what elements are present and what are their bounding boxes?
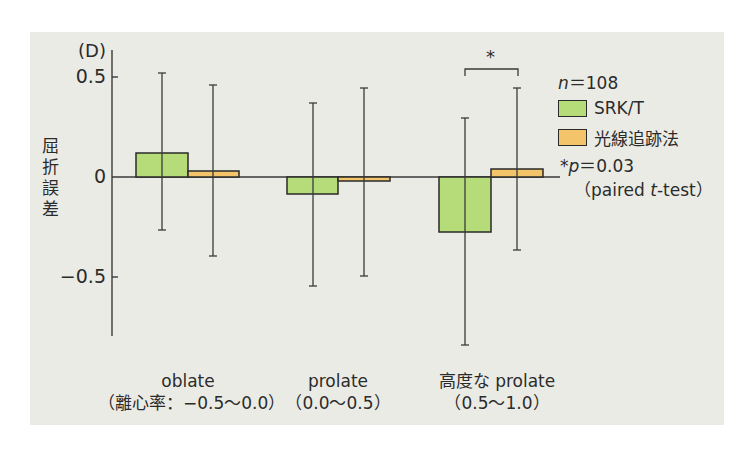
category-name: prolate — [268, 370, 408, 392]
significance-asterisk: * — [486, 46, 495, 67]
y-axis-label-char: 折 — [40, 157, 60, 178]
test-open: （paired — [574, 180, 650, 200]
category-range: （0.5〜1.0） — [412, 392, 582, 414]
legend-item-raytracing: 光線追跡法 — [558, 125, 679, 150]
y-tick-label-neg-0.5: −0.5 — [46, 265, 106, 287]
category-label-oblate: oblate （離心率：−0.5〜0.0） — [98, 370, 278, 414]
errorbar-srkt-oblate — [158, 73, 166, 230]
test-t: t — [650, 180, 657, 200]
y-axis-label: 屈 折 誤 差 — [40, 136, 60, 220]
y-tick-label-0.5: 0.5 — [46, 65, 106, 87]
p-value: ＝0.03 — [579, 156, 634, 176]
n-symbol: n — [558, 73, 569, 93]
legend-label-raytracing: 光線追跡法 — [594, 125, 679, 150]
n-value: ＝108 — [569, 73, 618, 93]
category-name: oblate — [98, 370, 278, 392]
p-value-note: *p＝0.03 — [560, 152, 634, 177]
legend-swatch-srkt — [558, 100, 587, 117]
errorbar-raytracing-prolate — [360, 88, 368, 276]
legend-item-srkt: SRK/T — [558, 98, 644, 118]
p-symbol: p — [569, 156, 580, 176]
y-axis-unit: (D) — [78, 40, 106, 61]
legend-sample-size: n＝108 — [558, 69, 618, 94]
category-range: （離心率：−0.5〜0.0） — [98, 392, 278, 414]
y-axis-label-char: 屈 — [40, 136, 60, 157]
test-close: -test） — [657, 180, 713, 200]
legend-label-srkt: SRK/T — [594, 98, 644, 118]
y-axis-label-char: 誤 — [40, 178, 60, 199]
category-label-high-prolate: 高度な prolate （0.5〜1.0） — [412, 370, 582, 414]
p-asterisk: * — [560, 156, 569, 176]
category-range: （0.0〜0.5） — [268, 392, 408, 414]
significance-bracket — [465, 69, 518, 76]
category-name: 高度な prolate — [412, 370, 582, 392]
y-axis-label-char: 差 — [40, 199, 60, 220]
legend-swatch-raytracing — [558, 129, 587, 146]
test-note: （paired t-test） — [574, 176, 713, 201]
category-label-prolate: prolate （0.0〜0.5） — [268, 370, 408, 414]
